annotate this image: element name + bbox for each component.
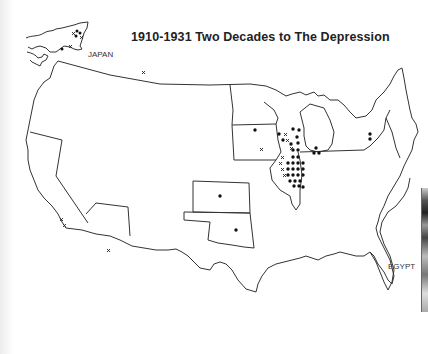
japan-label: JAPAN xyxy=(88,50,113,59)
cross-markers xyxy=(60,32,293,252)
dot-markers xyxy=(61,30,372,232)
cropped-photo-edge xyxy=(421,188,428,312)
egypt-label: EGYPT xyxy=(388,262,415,271)
us-outline xyxy=(26,61,418,292)
japan-inset-outline xyxy=(26,22,88,66)
map-title: 1910-1931 Two Decades to The Depression xyxy=(131,30,390,44)
